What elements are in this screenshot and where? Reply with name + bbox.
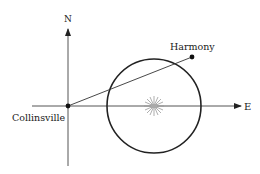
east-label: E — [244, 101, 251, 112]
collinsville-point — [66, 104, 71, 109]
route-line — [68, 57, 192, 106]
harmony-point — [190, 55, 195, 60]
sunburst-icon — [144, 96, 164, 116]
north-label: N — [64, 14, 72, 24]
navigation-diagram: N E Collinsville Harmony — [0, 0, 260, 174]
harmony-label: Harmony — [170, 41, 215, 52]
collinsville-label: Collinsville — [12, 112, 66, 123]
